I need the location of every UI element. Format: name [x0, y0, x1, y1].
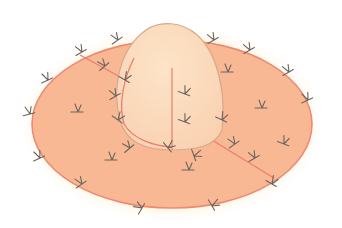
illustration: [0, 0, 342, 228]
illustration-canvas: [0, 0, 342, 228]
